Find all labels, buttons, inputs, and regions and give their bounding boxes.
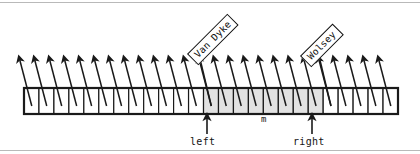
index-marker-arrows xyxy=(207,118,312,134)
marker-label-right: right xyxy=(293,136,325,147)
array-cell[interactable] xyxy=(248,88,263,114)
array-cell[interactable] xyxy=(69,88,84,114)
array-cell[interactable] xyxy=(383,88,398,114)
array-cell[interactable] xyxy=(218,88,233,114)
array-cell[interactable] xyxy=(159,88,174,114)
array-cell[interactable] xyxy=(99,88,114,114)
array-cell[interactable] xyxy=(293,88,308,114)
array-cell[interactable] xyxy=(353,88,368,114)
array-cell[interactable] xyxy=(114,88,129,114)
array-cell[interactable] xyxy=(129,88,144,114)
array-cell[interactable] xyxy=(189,88,204,114)
marker-label-m: m xyxy=(261,114,266,124)
array-cell[interactable] xyxy=(39,88,54,114)
array-cell[interactable] xyxy=(323,88,338,114)
array-cell[interactable] xyxy=(308,88,323,114)
array-cell[interactable] xyxy=(338,88,353,114)
array-cell[interactable] xyxy=(263,88,278,114)
array-cell[interactable] xyxy=(204,88,219,114)
array-cell[interactable] xyxy=(368,88,383,114)
array-cell[interactable] xyxy=(84,88,99,114)
array-cell[interactable] xyxy=(144,88,159,114)
diagram-canvas xyxy=(0,0,420,154)
array-cell[interactable] xyxy=(54,88,69,114)
marker-label-left: left xyxy=(190,136,215,147)
array-cell[interactable] xyxy=(174,88,189,114)
array-pointer-diagram: Van Dyke Wolsey left right m xyxy=(0,0,420,154)
array-cell[interactable] xyxy=(24,88,39,114)
array-cell[interactable] xyxy=(278,88,293,114)
array-cell[interactable] xyxy=(233,88,248,114)
